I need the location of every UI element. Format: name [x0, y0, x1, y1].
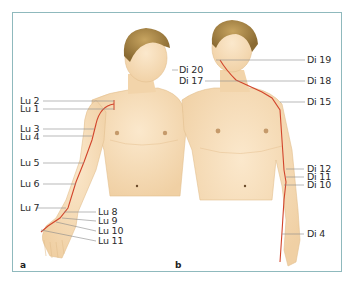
point-label-lu5: Lu 5 [20, 158, 39, 168]
point-label-lu4: Lu 4 [20, 132, 39, 142]
point-label-di15: Di 15 [307, 97, 331, 107]
point-label-di18: Di 18 [307, 76, 331, 86]
point-label-di10: Di 10 [307, 180, 331, 190]
point-label-di19: Di 19 [307, 55, 331, 65]
panel-label-a: a [20, 260, 26, 270]
point-label-lu1: Lu 1 [20, 104, 39, 114]
point-label-lu11: Lu 11 [98, 236, 123, 246]
anatomy-illustration [0, 0, 352, 283]
point-label-lu7: Lu 7 [20, 203, 39, 213]
point-label-lu6: Lu 6 [20, 179, 39, 189]
point-label-di17: Di 17 [179, 76, 203, 86]
panel-label-b: b [175, 260, 181, 270]
point-label-di20: Di 20 [179, 65, 203, 75]
point-label-di4: Di 4 [307, 229, 325, 239]
